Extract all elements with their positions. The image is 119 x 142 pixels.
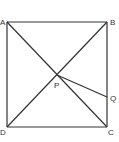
label-q: Q bbox=[110, 94, 116, 103]
label-p: P bbox=[54, 81, 59, 90]
geometry-figure: A B C D P Q bbox=[0, 0, 119, 142]
segment-pq bbox=[57, 75, 107, 97]
label-c: C bbox=[108, 128, 114, 137]
label-b: B bbox=[110, 18, 115, 27]
label-a: A bbox=[0, 18, 6, 27]
label-d: D bbox=[0, 128, 6, 137]
